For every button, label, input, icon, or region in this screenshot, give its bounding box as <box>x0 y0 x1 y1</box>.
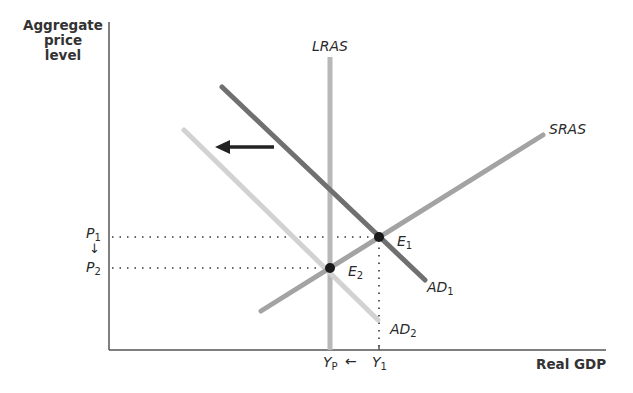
y1-label: Y1 <box>372 354 387 372</box>
shift-arrow-icon <box>215 140 230 154</box>
price-down-arrow-icon: ↓ <box>89 241 100 256</box>
yp-label: YP <box>323 354 338 372</box>
e1-label: E1 <box>397 233 412 251</box>
ad1-label: AD1 <box>427 279 454 297</box>
p2-label: P2 <box>86 259 101 277</box>
y-label-line-1: Aggregate <box>8 18 118 33</box>
ad2-label: AD2 <box>390 321 417 339</box>
y-axis-label: Aggregate price level <box>8 18 118 63</box>
output-left-arrow-icon: ← <box>345 353 357 369</box>
e2-label: E2 <box>348 263 363 281</box>
y-label-line-3: level <box>8 48 118 63</box>
ad1-curve <box>222 87 425 280</box>
x-axis-label: Real GDP <box>536 356 606 372</box>
ad2-curve <box>184 130 378 320</box>
y-label-line-2: price <box>8 33 118 48</box>
e2-point <box>325 263 335 273</box>
lras-label: LRAS <box>312 38 348 54</box>
e1-point <box>374 232 384 242</box>
sras-label: SRAS <box>549 121 586 137</box>
